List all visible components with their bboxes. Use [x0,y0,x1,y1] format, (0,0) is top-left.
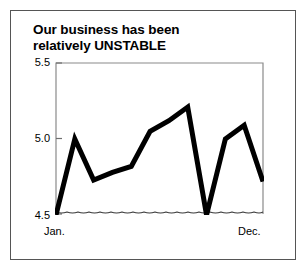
plot-area [55,62,264,215]
line-chart-svg [55,62,264,215]
chart-title: Our business has been relatively UNSTABL… [33,22,263,54]
x-tick-label-end: Dec. [238,226,261,237]
chart-title-line-1: Our business has been [33,22,263,38]
x-tick-label-start: Jan. [44,226,65,237]
y-tick-label-top: 5.5 [24,57,50,68]
chart-title-line-2: relatively UNSTABLE [33,38,263,54]
chart-figure: Our business has been relatively UNSTABL… [0,0,306,272]
y-tick-label-mid: 5.0 [24,133,50,144]
broken-axis-squiggle [56,212,263,213]
y-tick-label-bottom: 4.5 [24,210,50,221]
data-series-line [56,107,263,215]
axis-spines [56,63,263,214]
